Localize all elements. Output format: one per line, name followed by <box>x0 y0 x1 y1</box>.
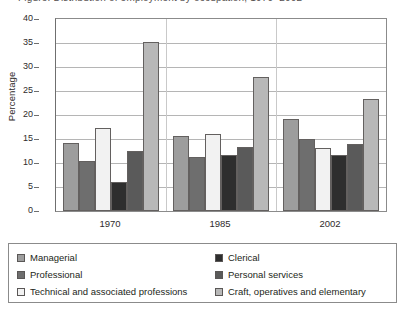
x-axis-tick-label: 1985 <box>165 218 275 229</box>
y-axis-tick-mark <box>34 211 39 212</box>
y-axis-tick-mark <box>34 163 39 164</box>
legend-column-left: ManagerialProfessionalTechnical and asso… <box>17 249 187 300</box>
chart-legend: ManagerialProfessionalTechnical and asso… <box>8 243 397 303</box>
bar-personal-services-2002 <box>347 144 363 211</box>
bar-clerical-2002 <box>331 155 347 211</box>
y-axis-tick-label: 40 <box>9 14 33 23</box>
y-axis-tick-mark <box>34 139 39 140</box>
bar-craft-operatives-and-elementary-1985 <box>253 77 269 211</box>
y-axis-tick-label: 0 <box>9 206 33 215</box>
legend-swatch-icon <box>215 288 223 296</box>
legend-item[interactable]: Professional <box>17 266 187 283</box>
legend-swatch-icon <box>17 271 25 279</box>
y-axis-tick-mark <box>34 115 39 116</box>
y-axis-tick-label: 5 <box>9 182 33 191</box>
bars-layer <box>56 19 386 211</box>
legend-item[interactable]: Craft, operatives and elementary <box>215 283 366 300</box>
legend-item[interactable]: Technical and associated professions <box>17 283 187 300</box>
y-axis-tick-mark <box>34 187 39 188</box>
legend-item-label: Personal services <box>228 270 303 280</box>
bar-technical-and-associated-professions-2002 <box>315 148 331 211</box>
legend-item-label: Professional <box>30 270 82 280</box>
bar-clerical-1970 <box>111 182 127 211</box>
bar-personal-services-1985 <box>237 147 253 211</box>
chart-title: Figure: Distribution of employment by oc… <box>18 0 302 3</box>
bar-craft-operatives-and-elementary-2002 <box>363 99 379 211</box>
legend-item-label: Managerial <box>30 253 77 263</box>
chart-title-strip: Figure: Distribution of employment by oc… <box>0 0 405 7</box>
bar-technical-and-associated-professions-1985 <box>205 134 221 211</box>
x-axis-tick-label: 2002 <box>275 218 385 229</box>
bar-craft-operatives-and-elementary-1970 <box>143 42 159 211</box>
bar-managerial-1985 <box>173 136 189 211</box>
bar-managerial-1970 <box>63 143 79 211</box>
legend-column-right: ClericalPersonal servicesCraft, operativ… <box>215 249 366 300</box>
legend-swatch-icon <box>215 271 223 279</box>
legend-item[interactable]: Managerial <box>17 249 187 266</box>
bar-managerial-2002 <box>283 119 299 211</box>
x-axis: 197019852002 <box>55 215 387 233</box>
bar-professional-2002 <box>299 139 315 211</box>
y-axis-tick-mark <box>34 19 39 20</box>
y-axis-tick-mark <box>34 43 39 44</box>
x-axis-tick-label: 1970 <box>55 218 165 229</box>
bar-professional-1985 <box>189 157 205 211</box>
legend-item-label: Craft, operatives and elementary <box>228 287 366 297</box>
legend-item[interactable]: Personal services <box>215 266 366 283</box>
y-axis-tick-label: 35 <box>9 38 33 47</box>
bar-technical-and-associated-professions-1970 <box>95 128 111 211</box>
y-axis-tick-mark <box>34 67 39 68</box>
bar-professional-1970 <box>79 161 95 211</box>
legend-item-label: Clerical <box>228 253 260 263</box>
y-axis-tick-label: 10 <box>9 158 33 167</box>
legend-item[interactable]: Clerical <box>215 249 366 266</box>
legend-item-label: Technical and associated professions <box>30 287 187 297</box>
chart-container: 4035302520151050 Percentage 197019852002 <box>0 7 405 240</box>
y-axis-title: Percentage <box>6 55 17 139</box>
legend-swatch-icon <box>17 288 25 296</box>
bar-personal-services-1970 <box>127 151 143 211</box>
legend-swatch-icon <box>17 254 25 262</box>
bar-clerical-1985 <box>221 155 237 211</box>
y-axis-tick-mark <box>34 91 39 92</box>
legend-swatch-icon <box>215 254 223 262</box>
